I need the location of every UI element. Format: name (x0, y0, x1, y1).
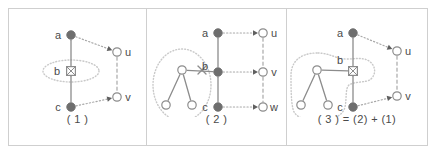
node-v (113, 93, 121, 101)
node-label-w: w (269, 101, 278, 113)
node-unlabeled-s1 (178, 66, 186, 74)
node-u (393, 47, 401, 55)
panel-2-diagram: abcuvw (147, 9, 286, 117)
edge-s1-s3 (183, 75, 190, 100)
panel-1-diagram: abcuv (9, 9, 146, 117)
node-label-u: u (125, 46, 131, 58)
node-unlabeled-s2 (162, 101, 170, 109)
node-label-c: c (202, 101, 208, 113)
node-v (259, 68, 267, 76)
node-c (349, 103, 357, 111)
node-label-v: v (271, 66, 277, 78)
panel-1-caption: ( 1 ) (9, 113, 146, 125)
node-b (214, 68, 222, 76)
panel-1: abcuv ( 1 ) (9, 9, 146, 145)
node-label-c: c (337, 101, 343, 113)
node-v (393, 92, 401, 100)
edge-s1-s3 (319, 75, 327, 100)
edge-s1-s2 (168, 75, 180, 101)
arrowhead-b-v (253, 69, 258, 74)
node-label-a: a (202, 27, 209, 39)
figure-root: abcuv ( 1 ) abcuvw ( 2 ) abcuv ( 3 ) = (… (0, 0, 437, 155)
node-label-u: u (271, 27, 277, 39)
node-unlabeled-s2 (297, 101, 305, 109)
arrowhead-c-v (387, 96, 393, 101)
edge-a-u (76, 37, 108, 49)
node-unlabeled-s3 (188, 101, 196, 109)
node-w (259, 103, 267, 111)
node-label-b: b (337, 54, 343, 66)
node-b (67, 67, 76, 76)
node-b (349, 67, 358, 76)
panel-3-diagram: abcuv (287, 9, 427, 117)
node-label-u: u (405, 45, 411, 57)
edge-c-v (76, 99, 108, 106)
panel-3: abcuv ( 3 ) = (2) + (1) (287, 9, 427, 145)
arrowhead-a-u (253, 30, 258, 35)
edge-a-u (358, 35, 389, 48)
node-label-v: v (405, 90, 411, 102)
node-a (214, 29, 222, 37)
panel-2: abcuvw ( 2 ) (146, 9, 287, 145)
arrowhead-c-v (107, 96, 112, 101)
node-c (214, 103, 222, 111)
node-u (259, 29, 267, 37)
node-label-v: v (125, 91, 131, 103)
node-a (67, 31, 75, 39)
node-c (67, 103, 75, 111)
node-unlabeled-s3 (324, 101, 332, 109)
edge-c-v (358, 98, 388, 106)
edge-s1-s2 (303, 75, 315, 101)
node-label-a: a (337, 27, 344, 39)
node-u (113, 48, 121, 56)
node-label-c: c (55, 101, 61, 113)
panel-3-caption: ( 3 ) = (2) + (1) (287, 113, 427, 125)
node-a (349, 29, 357, 37)
node-unlabeled-s1 (313, 66, 321, 74)
node-label-b: b (54, 65, 60, 77)
edge-s1-b (322, 70, 348, 71)
panel-2-caption: ( 2 ) (147, 113, 286, 125)
node-label-a: a (55, 29, 62, 41)
figure-frame: abcuv ( 1 ) abcuvw ( 2 ) abcuv ( 3 ) = (… (8, 8, 428, 146)
node-label-b: b (202, 60, 208, 72)
arrowhead-c-w (253, 104, 258, 109)
